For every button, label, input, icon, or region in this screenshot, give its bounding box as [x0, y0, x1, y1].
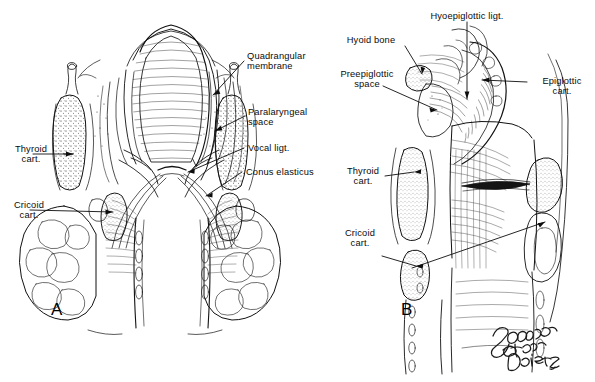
panel-letter-b: B — [401, 300, 412, 320]
label-vocal-ligament: Vocal ligt. — [248, 143, 289, 153]
label-epiglottic-cart: Epiglottic cart. — [529, 76, 595, 97]
label-hyoepiglottic-ligament: Hyoepiglottic ligt. — [400, 11, 534, 21]
label-quadrangular-membrane: Quadrangular membrane — [247, 51, 306, 72]
artist-signature: George after Dietz — [487, 320, 573, 372]
panel-letter-a: A — [51, 300, 62, 320]
label-conus-elasticus: Conus elasticus — [246, 167, 314, 177]
label-hyoid-bone: Hyoid bone — [333, 35, 409, 45]
label-thyroid-cart-b: Thyroid cart. — [332, 166, 394, 187]
panel-a-artwork — [19, 25, 280, 335]
label-cricoid-cart-a: Cricoid cart. — [0, 200, 58, 221]
anatomical-figure: Quadrangular membrane Paralaryngeal spac… — [0, 0, 595, 382]
label-cricoid-cart-b: Cricoid cart. — [330, 228, 390, 249]
label-paralaryngeal-space: Paralaryngeal space — [248, 107, 307, 128]
label-preepiglottic-space: Preepiglottic space — [329, 69, 405, 90]
label-thyroid-cart-a: Thyroid cart. — [0, 144, 62, 165]
